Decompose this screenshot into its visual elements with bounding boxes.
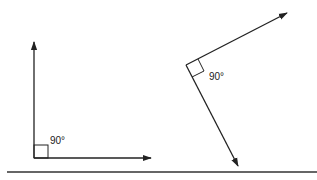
upper-arrow bbox=[186, 13, 287, 65]
left-right-angle: 90° bbox=[34, 42, 151, 158]
right-angles-diagram: 90° 90° bbox=[0, 0, 317, 180]
angle-label: 90° bbox=[209, 71, 224, 82]
angle-label: 90° bbox=[50, 135, 65, 146]
rotated-right-angle: 90° bbox=[186, 13, 287, 166]
right-angle-marker bbox=[34, 145, 48, 158]
